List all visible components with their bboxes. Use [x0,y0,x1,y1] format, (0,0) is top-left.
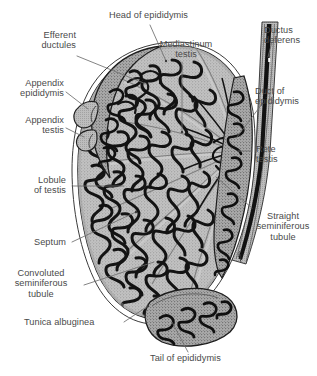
label-appendix-epididymis[interactable]: Appendix epididymis [2,78,64,99]
label-tail-of-epididymis[interactable]: Tail of epididymis [150,353,260,363]
label-septum[interactable]: Septum [10,237,66,247]
label-straight-seminiferous-tubule[interactable]: Straight seminiferous tubule [250,211,316,242]
label-appendix-testis[interactable]: Appendix testis [6,115,64,136]
label-duct-of-epididymis[interactable]: Duct of epididymis [255,86,315,107]
label-rete-testis[interactable]: Rete testis [256,144,304,165]
label-efferent-ductules[interactable]: Efferent ductules [8,30,76,51]
label-convoluted-seminiferous-tubule[interactable]: Convoluted seminiferous tubule [4,268,78,299]
label-mediastinum-testis[interactable]: Mediastinum testis [152,39,220,60]
tail-of-epididymis [145,288,237,346]
anatomical-figure: Head of epididymis Efferent ductules App… [0,0,317,376]
label-head-of-epididymis[interactable]: Head of epididymis [101,10,196,20]
label-ductus-deferens[interactable]: Ductus deferens [264,25,316,46]
label-tunica-albuginea[interactable]: Tunica albuginea [24,317,120,327]
label-lobule-of-testis[interactable]: Lobule of testis [4,175,66,196]
